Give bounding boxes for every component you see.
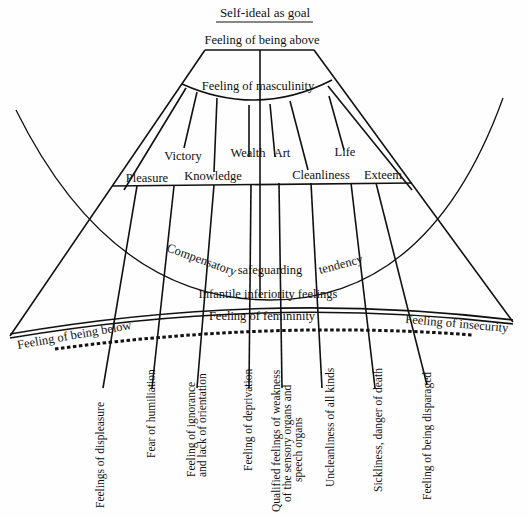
line-humiliation — [152, 186, 174, 388]
goal-wealth: Wealth — [230, 146, 266, 160]
bottom-label-text: Feelings of displeasure — [94, 402, 107, 508]
diagram-canvas: Self-ideal as goal Feeling of being abov… — [0, 0, 529, 518]
bottom-label-text: speech organs — [292, 417, 305, 482]
label-safeguarding: safeguarding — [238, 263, 303, 277]
label-feeling-of-masculinity: Feeling of masculinity — [202, 79, 315, 93]
bottom-label-ignorance: Feeling of ignorance and lack of orienta… — [185, 373, 208, 477]
goal-exteem: Exteem — [364, 168, 402, 182]
diagram-svg: Self-ideal as goal Feeling of being abov… — [0, 0, 529, 518]
diagram-title: Self-ideal as goal — [220, 5, 311, 20]
line-knowledge — [214, 98, 217, 172]
bottom-label-humiliation: Fear of humiliation — [145, 369, 157, 458]
trapezoid-right-side — [314, 50, 513, 322]
line-sickliness — [351, 183, 375, 388]
goal-cleanliness: Cleanliness — [292, 168, 350, 182]
label-feeling-of-being-above: Feeling of being above — [205, 33, 320, 47]
line-disparaged — [376, 183, 427, 385]
goal-pleasure: Pleasure — [126, 171, 169, 185]
line-victory — [184, 92, 197, 148]
bottom-label-weakness: Qualified feelings of weakness of the se… — [270, 369, 305, 512]
bottom-label-deprivation: Feeling of deprivation — [242, 369, 255, 471]
line-cleanliness — [290, 101, 308, 170]
goal-knowledge: Knowledge — [184, 169, 242, 183]
label-compensatory: Compensatory — [165, 241, 239, 279]
label-infantile-inferiority: Infantile inferiority feelings — [199, 287, 338, 301]
bottom-label-text: Sickliness, danger of death — [372, 368, 385, 492]
goal-art: Art — [274, 146, 291, 160]
bottom-label-displeasure: Feelings of displeasure — [94, 402, 107, 508]
bottom-label-uncleanliness: Uncleanliness of all kinds — [324, 367, 336, 487]
line-deprivation — [249, 184, 251, 388]
bottom-label-text: Feeling of deprivation — [242, 369, 255, 471]
bottom-label-sickliness: Sickliness, danger of death — [372, 368, 385, 492]
bottom-label-text: and lack of orientation — [196, 373, 208, 477]
bottom-label-text: Uncleanliness of all kinds — [324, 367, 336, 487]
bottom-label-text: Fear of humiliation — [145, 369, 157, 458]
label-feeling-of-femininity: Feeling of femininity — [209, 309, 316, 323]
goal-victory: Victory — [164, 149, 202, 163]
label-tendency: tendency — [317, 252, 365, 277]
goal-life: Life — [335, 145, 356, 159]
bottom-label-disparaged: Feeling of being disparaged — [421, 372, 434, 500]
line-displeasure — [103, 186, 137, 388]
bottom-label-text: Feeling of being disparaged — [421, 372, 434, 500]
trapezoid-left-side — [10, 50, 205, 336]
line-weakness — [279, 183, 282, 388]
line-uncleanliness — [311, 183, 322, 388]
